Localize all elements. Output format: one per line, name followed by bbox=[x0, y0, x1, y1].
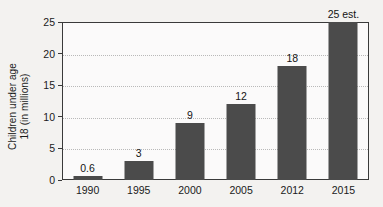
x-tick-label: 2005 bbox=[229, 184, 252, 196]
bar-value-label: 12 bbox=[235, 90, 247, 102]
bar-group[interactable]: 9 bbox=[164, 22, 215, 180]
bar-group[interactable]: 12 bbox=[216, 22, 267, 180]
x-tick-label: 1995 bbox=[127, 184, 150, 196]
bar-group[interactable]: 3 bbox=[113, 22, 164, 180]
bar-group[interactable]: 25 est. bbox=[318, 22, 369, 180]
bar-value-label: 9 bbox=[187, 109, 193, 121]
y-tick-label: 5 bbox=[49, 142, 55, 154]
y-axis-title: Children under age 18 (in millions) bbox=[0, 0, 44, 207]
bar[interactable] bbox=[329, 22, 358, 180]
y-tick-label: 20 bbox=[43, 48, 55, 60]
x-tick-label: 2012 bbox=[281, 184, 304, 196]
bar-value-label: 18 bbox=[286, 52, 298, 64]
bar[interactable] bbox=[227, 104, 256, 180]
y-tick-label: 0 bbox=[49, 174, 55, 186]
x-tick-label: 2015 bbox=[332, 184, 355, 196]
y-tick-label: 15 bbox=[43, 79, 55, 91]
bars-layer: 0.639121825 est. bbox=[62, 22, 369, 180]
x-tick-label: 2000 bbox=[178, 184, 201, 196]
y-axis-title-line-2: 18 (in millions) bbox=[19, 63, 31, 150]
bar-chart: Children under age 18 (in millions) 0510… bbox=[0, 0, 383, 207]
y-axis-title-line-1: Children under age bbox=[7, 63, 19, 150]
bar-value-label: 25 est. bbox=[328, 8, 360, 20]
bar[interactable] bbox=[278, 66, 307, 180]
x-tick-label: 1990 bbox=[76, 184, 99, 196]
y-tick-label: 25 bbox=[43, 16, 55, 28]
bar-group[interactable]: 18 bbox=[267, 22, 318, 180]
bar-value-label: 0.6 bbox=[80, 162, 95, 174]
bar[interactable] bbox=[175, 123, 204, 180]
bar[interactable] bbox=[73, 176, 102, 180]
bar[interactable] bbox=[124, 161, 153, 180]
y-tick-label: 10 bbox=[43, 111, 55, 123]
bar-group[interactable]: 0.6 bbox=[62, 22, 113, 180]
bar-value-label: 3 bbox=[136, 147, 142, 159]
x-axis-labels: 199019952000200520122015 bbox=[62, 184, 369, 202]
